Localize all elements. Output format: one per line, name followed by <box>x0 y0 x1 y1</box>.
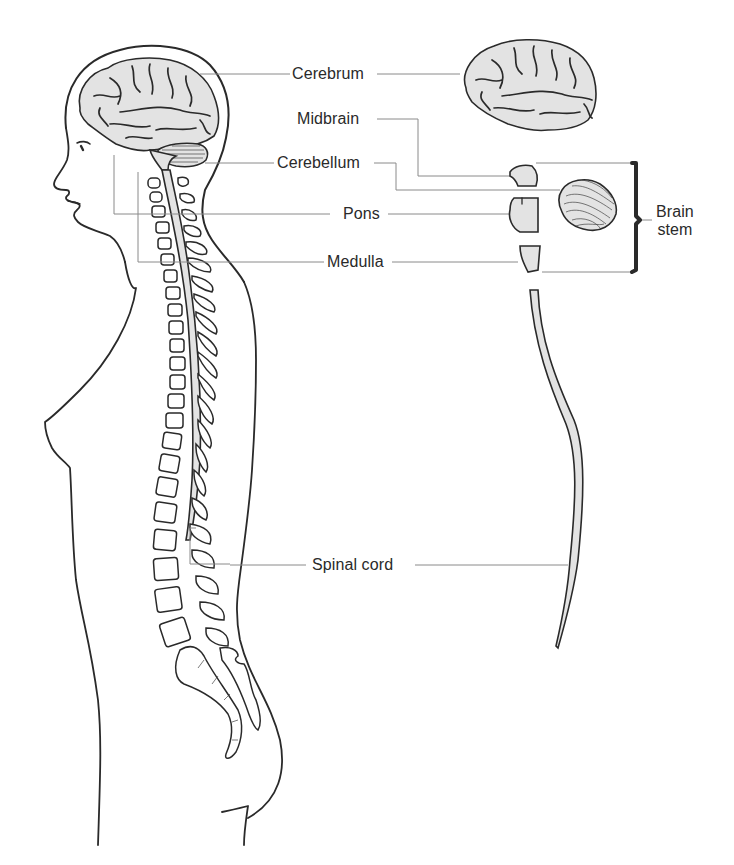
pons-illustration <box>509 198 538 232</box>
label-brain-stem-line2: stem <box>656 221 694 239</box>
vertebral-column <box>148 177 260 758</box>
label-medulla: Medulla <box>327 253 384 271</box>
label-spinal-cord: Spinal cord <box>312 556 393 574</box>
label-brain-stem: Brain stem <box>656 203 694 239</box>
midbrain-illustration <box>510 165 537 186</box>
brain-stem-bracket <box>632 163 640 272</box>
label-pons: Pons <box>343 205 380 223</box>
cerebellum-illustration <box>559 180 616 231</box>
spinal-cord-illustration <box>530 290 583 648</box>
brain-in-head <box>79 58 218 170</box>
label-cerebrum: Cerebrum <box>292 65 364 83</box>
cns-diagram: Cerebrum Midbrain Cerebellum Pons Medull… <box>0 0 734 865</box>
diagram-artwork <box>0 0 734 865</box>
cerebrum-illustration <box>465 40 596 131</box>
label-midbrain: Midbrain <box>297 110 359 128</box>
label-brain-stem-line1: Brain <box>656 203 694 221</box>
medulla-illustration <box>520 246 540 272</box>
label-cerebellum: Cerebellum <box>277 154 360 172</box>
